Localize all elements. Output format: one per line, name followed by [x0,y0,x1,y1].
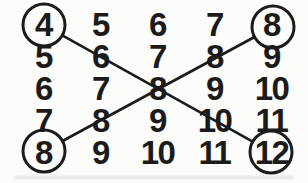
grid-cell: 8 [129,72,186,104]
grid-cell: 7 [129,40,186,72]
grid-cell: 6 [15,72,72,104]
grid-cell: 9 [186,72,243,104]
grid-cell: 12 [243,136,300,168]
grid-cell: 6 [72,40,129,72]
grid-cell: 11 [243,104,300,136]
grid-cell: 5 [72,8,129,40]
grid-cell: 9 [243,40,300,72]
grid-cell: 8 [243,8,300,40]
grid-cell: 8 [15,136,72,168]
grid-cell: 10 [129,136,186,168]
grid-cell: 9 [72,136,129,168]
grid-cell: 9 [129,104,186,136]
grid-cell: 7 [15,104,72,136]
number-grid: 4 5 6 7 8 5 6 7 8 9 6 7 8 9 10 7 8 9 10 … [15,8,300,168]
grid-cell: 4 [15,8,72,40]
grid-cell: 7 [72,72,129,104]
grid-cell: 10 [186,104,243,136]
grid-cell: 8 [72,104,129,136]
addition-table-figure: 4 5 6 7 8 5 6 7 8 9 6 7 8 9 10 7 8 9 10 … [0,0,308,183]
scan-smudge [14,176,294,179]
grid-cell: 8 [186,40,243,72]
grid-cell: 10 [243,72,300,104]
grid-cell: 5 [15,40,72,72]
grid-cell: 11 [186,136,243,168]
grid-cell: 7 [186,8,243,40]
grid-cell: 6 [129,8,186,40]
